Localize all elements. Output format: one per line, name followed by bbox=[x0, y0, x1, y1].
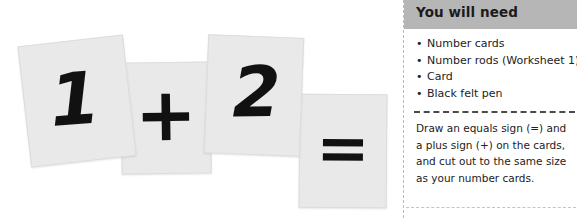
flashcard-number-one: 1 bbox=[17, 34, 136, 167]
panel-title: You will need bbox=[416, 4, 518, 20]
flashcard-glyph-one: 1 bbox=[47, 61, 103, 137]
flashcard-equals-sign: = bbox=[299, 94, 388, 209]
list-item: Card bbox=[416, 69, 575, 86]
flashcard-glyph-plus: + bbox=[134, 77, 197, 152]
flashcards-illustration: 1 + 2 = bbox=[0, 0, 400, 218]
flashcard-number-two: 2 bbox=[204, 34, 304, 157]
you-will-need-panel: You will need Number cards Number rods (… bbox=[403, 0, 577, 218]
panel-bottom-dashed-border bbox=[406, 207, 576, 208]
panel-header-band: You will need bbox=[404, 0, 577, 29]
list-item: Number rods (Worksheet 1) bbox=[416, 53, 575, 70]
panel-body-text: Draw an equals sign (=) and a plus sign … bbox=[416, 120, 568, 186]
dashed-divider bbox=[414, 111, 575, 113]
flashcard-glyph-equals: = bbox=[316, 116, 370, 180]
list-item: Black felt pen bbox=[416, 86, 575, 103]
list-item: Number cards bbox=[416, 36, 575, 53]
flashcard-plus-sign: + bbox=[120, 61, 212, 174]
page-root: 1 + 2 = You will need Number cards Numbe… bbox=[0, 0, 577, 218]
flashcard-glyph-two: 2 bbox=[231, 56, 281, 127]
materials-list: Number cards Number rods (Worksheet 1) C… bbox=[416, 36, 575, 102]
